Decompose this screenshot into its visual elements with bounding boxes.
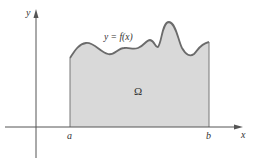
a-label: a <box>67 130 72 141</box>
region-label: Ω <box>134 85 142 97</box>
region-omega <box>70 22 209 127</box>
y-axis-arrow-icon <box>34 9 39 18</box>
b-label: b <box>206 130 211 141</box>
curve-label: y = f(x) <box>103 32 133 43</box>
y-axis-label: y <box>25 7 31 18</box>
x-axis-label: x <box>240 129 246 140</box>
area-diagram: y x a b Ω y = f(x) <box>0 0 257 167</box>
